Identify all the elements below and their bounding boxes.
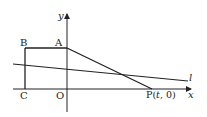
y-axis-label: y xyxy=(57,10,64,21)
point-P-label: P(t, 0) xyxy=(146,89,176,100)
point-C-label: C xyxy=(20,90,28,101)
point-P-suffix: , 0) xyxy=(160,89,176,100)
line-l-label: l xyxy=(189,72,192,83)
line-l xyxy=(13,64,188,81)
coordinate-diagram: y x l A B C O P(t, 0) xyxy=(0,0,207,117)
segment-AP xyxy=(67,48,152,89)
point-A-label: A xyxy=(54,37,63,48)
point-B-label: B xyxy=(20,37,27,48)
point-P-prefix: P( xyxy=(146,89,156,100)
origin-O-label: O xyxy=(56,90,64,101)
x-axis-label: x xyxy=(188,89,194,100)
